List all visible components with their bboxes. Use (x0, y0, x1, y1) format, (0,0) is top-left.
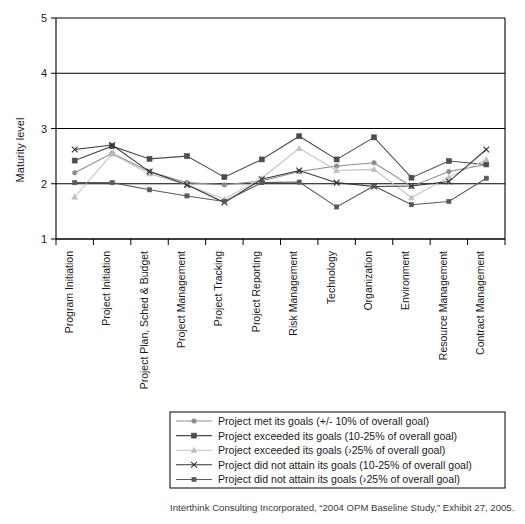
data-point-marker-square (192, 433, 197, 438)
series-3 (72, 142, 489, 205)
data-point-marker-square-small (110, 181, 114, 185)
legend-item-label: Project exceeded its goals (10-25% of ov… (218, 430, 457, 442)
y-tick-label: 2 (41, 178, 47, 190)
maturity-level-line-chart: 12345 Program InitiationProject Initiati… (0, 0, 525, 524)
y-tick-label: 4 (41, 67, 47, 79)
data-point-marker-square-small (297, 180, 301, 184)
series-line (75, 145, 487, 202)
x-category-label: Environment (399, 251, 411, 310)
data-point-marker-square (147, 156, 152, 161)
series-1 (72, 134, 489, 180)
data-point-marker-square (222, 175, 227, 180)
x-axis-category-labels: Program InitiationProject InitiationProj… (63, 250, 487, 389)
series-line (75, 153, 487, 186)
x-category-label: Organization (362, 251, 374, 311)
data-point-marker-square (484, 162, 489, 167)
y-axis-ticks: 12345 (41, 12, 56, 245)
series-0 (72, 151, 488, 189)
data-point-marker-square (372, 135, 377, 140)
series-line (75, 178, 487, 207)
data-point-marker-circle (222, 183, 227, 188)
data-point-marker-square (446, 159, 451, 164)
data-point-marker-square (334, 157, 339, 162)
gridlines (56, 18, 505, 239)
data-point-marker-circle (447, 169, 452, 174)
x-axis-ticks (56, 239, 505, 245)
data-point-marker-square-small (335, 205, 339, 209)
data-point-marker-x (483, 147, 489, 153)
data-point-marker-square (297, 134, 302, 139)
data-point-marker-square-small (372, 184, 376, 188)
data-point-marker-square (184, 154, 189, 159)
data-point-marker-square-small (222, 199, 226, 203)
data-point-marker-triangle (483, 157, 489, 162)
data-point-marker-circle (192, 419, 197, 424)
data-point-marker-square-small (260, 181, 264, 185)
legend-item-label: Project exceeded its goals (›25% of over… (218, 444, 445, 456)
y-tick-label: 1 (41, 233, 47, 245)
chart-figure: 12345 Program InitiationProject Initiati… (0, 0, 525, 524)
data-point-marker-square (409, 175, 414, 180)
data-point-marker-triangle (446, 174, 452, 179)
y-axis-title: Maturity level (14, 118, 26, 183)
x-category-label: Project Management (175, 251, 187, 348)
legend-item-label: Project did not attain its goals (›25% o… (218, 473, 460, 485)
data-point-marker-square-small (192, 477, 196, 481)
data-series (72, 134, 489, 209)
data-point-marker-circle (72, 170, 77, 175)
data-point-marker-triangle (296, 145, 302, 150)
y-tick-label: 5 (41, 12, 47, 24)
data-point-marker-square (259, 157, 264, 162)
x-category-label: Technology (325, 250, 337, 304)
x-category-label: Project Reporting (250, 251, 262, 332)
y-tick-label: 3 (41, 123, 47, 135)
data-point-marker-square-small (409, 203, 413, 207)
series-line (75, 136, 487, 177)
source-caption: Interthink Consulting Incorporated, “200… (170, 502, 514, 513)
legend-item-label: Project met its goals (+/- 10% of overal… (218, 415, 429, 427)
x-category-label: Project Tracking (212, 251, 224, 326)
x-category-label: Resource Management (437, 251, 449, 360)
data-point-marker-square-small (147, 188, 151, 192)
data-point-marker-square (72, 158, 77, 163)
legend-item-label: Project did not attain its goals (10-25%… (218, 459, 472, 471)
x-category-label: Program Initiation (63, 251, 75, 333)
x-category-label: Project Initiation (100, 251, 112, 326)
x-category-label: Risk Management (287, 251, 299, 336)
data-point-marker-circle (372, 160, 377, 165)
data-point-marker-square-small (447, 199, 451, 203)
series-line (75, 148, 487, 199)
x-category-label: Project Plan, Sched & Budget (138, 251, 150, 389)
data-point-marker-square-small (185, 194, 189, 198)
chart-legend: Project met its goals (+/- 10% of overal… (170, 412, 505, 488)
data-point-marker-square-small (73, 181, 77, 185)
data-point-marker-square-small (484, 176, 488, 180)
x-category-label: Contract Management (474, 251, 486, 355)
